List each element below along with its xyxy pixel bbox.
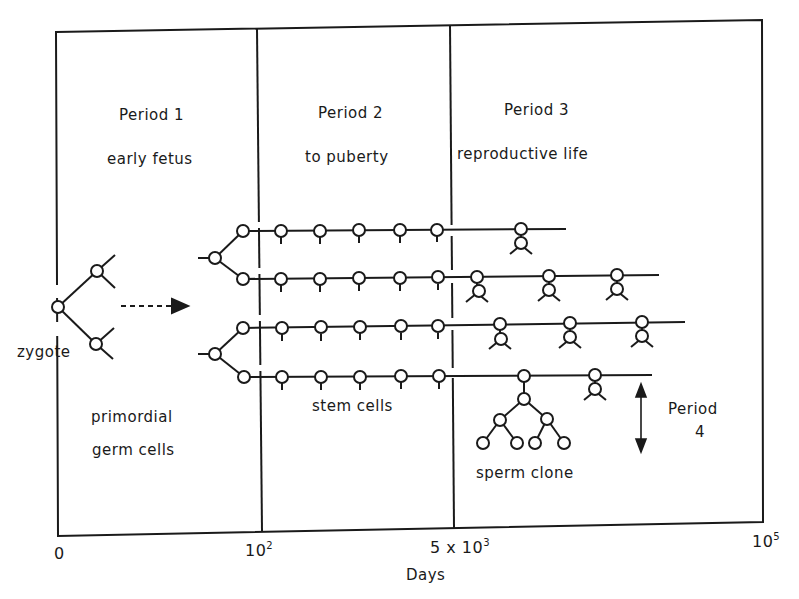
stem-cells-label: stem cells — [312, 397, 393, 415]
divider-period-1-2 — [257, 29, 262, 531]
sperm-clone-label: sperm clone — [476, 464, 574, 482]
differentiating-cell — [584, 369, 606, 400]
stem-line-3 — [243, 322, 685, 328]
axis-tick-5x10e3: 5 x 103 — [430, 537, 490, 557]
axis-tick-0: 0 — [54, 544, 65, 563]
sperm-clone-tree — [477, 370, 570, 449]
zygote-label: zygote — [17, 343, 71, 361]
differentiating-cell — [510, 223, 532, 254]
primordial-label: primordial — [91, 408, 173, 426]
period-3-subtitle: reproductive life — [457, 145, 588, 163]
axis-tick-10e2: 102 — [245, 540, 273, 560]
period-4-title: Period — [668, 400, 718, 418]
stem-cells-row-2 — [275, 271, 444, 292]
period-4-number: 4 — [695, 423, 705, 441]
differentiating-cell — [466, 271, 488, 302]
differentiating-cell — [489, 318, 511, 349]
differentiating-cell — [559, 317, 581, 348]
germ-cell-lineage-diagram — [0, 0, 799, 599]
axis-tick-10e5: 105 — [752, 531, 780, 551]
period-3-title: Period 3 — [504, 101, 569, 119]
period-2-subtitle: to puberty — [305, 148, 389, 166]
stem-cells-row-3 — [276, 320, 444, 341]
stem-cells-row-4 — [276, 370, 445, 390]
period-1-subtitle: early fetus — [107, 150, 193, 168]
differentiating-cell — [538, 270, 560, 301]
zygote-cell — [52, 301, 64, 313]
germ-cells-label: germ cells — [92, 441, 175, 459]
axis-label-days: Days — [406, 566, 445, 584]
period-4-double-arrow-icon — [636, 384, 646, 452]
arrow-head-icon — [172, 299, 188, 313]
period-1-title: Period 1 — [119, 106, 184, 124]
stem-cells-row-1 — [275, 224, 443, 244]
period-2-title: Period 2 — [318, 104, 383, 122]
differentiating-cell — [631, 316, 653, 347]
differentiating-cell — [606, 269, 628, 300]
